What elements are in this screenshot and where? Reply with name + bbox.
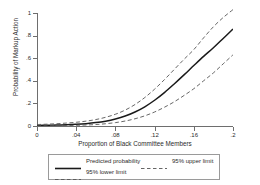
x-tick-label: .2 (230, 132, 235, 139)
legend-label: Predicted probability (86, 158, 140, 165)
series-line (37, 29, 233, 125)
legend-label: 95% upper limit (172, 158, 213, 165)
x-axis-line (37, 126, 233, 127)
legend-dashed-line-icon (55, 169, 81, 176)
x-tick-label: .04 (72, 132, 80, 139)
x-tick-mark (115, 127, 116, 131)
x-tick-label: .12 (150, 132, 158, 139)
x-tick-label: .16 (190, 132, 198, 139)
plot-area (37, 8, 233, 126)
x-tick-mark (37, 127, 38, 131)
x-tick-label: 0 (35, 132, 38, 139)
legend-entry: 95% lower limit (55, 169, 126, 176)
legend-entry: Predicted probability (55, 158, 140, 165)
y-axis-title: Probability of Markup Action (12, 1, 20, 113)
legend-dashed-line-icon (141, 158, 167, 165)
x-tick-mark (194, 127, 195, 131)
legend-entries: Predicted probability95% upper limit95% … (49, 155, 219, 179)
legend-entry: 95% upper limit (141, 158, 213, 165)
x-tick-mark (76, 127, 77, 131)
series-line (37, 10, 233, 125)
chart-figure: 0.2.4.6.81 0.04.08.12.16.2 Probability o… (0, 0, 260, 185)
x-tick-mark (155, 127, 156, 131)
y-tick-label: 0 (0, 123, 31, 130)
chart-legend: Predicted probability95% upper limit95% … (48, 154, 220, 180)
plot-curves (37, 8, 233, 126)
legend-solid-line-icon (55, 158, 81, 165)
x-axis-title: Proportion of Black Committee Members (37, 140, 233, 148)
legend-label: 95% lower limit (86, 169, 126, 176)
x-tick-mark (233, 127, 234, 131)
x-tick-label: .08 (111, 132, 119, 139)
series-line (37, 55, 233, 126)
